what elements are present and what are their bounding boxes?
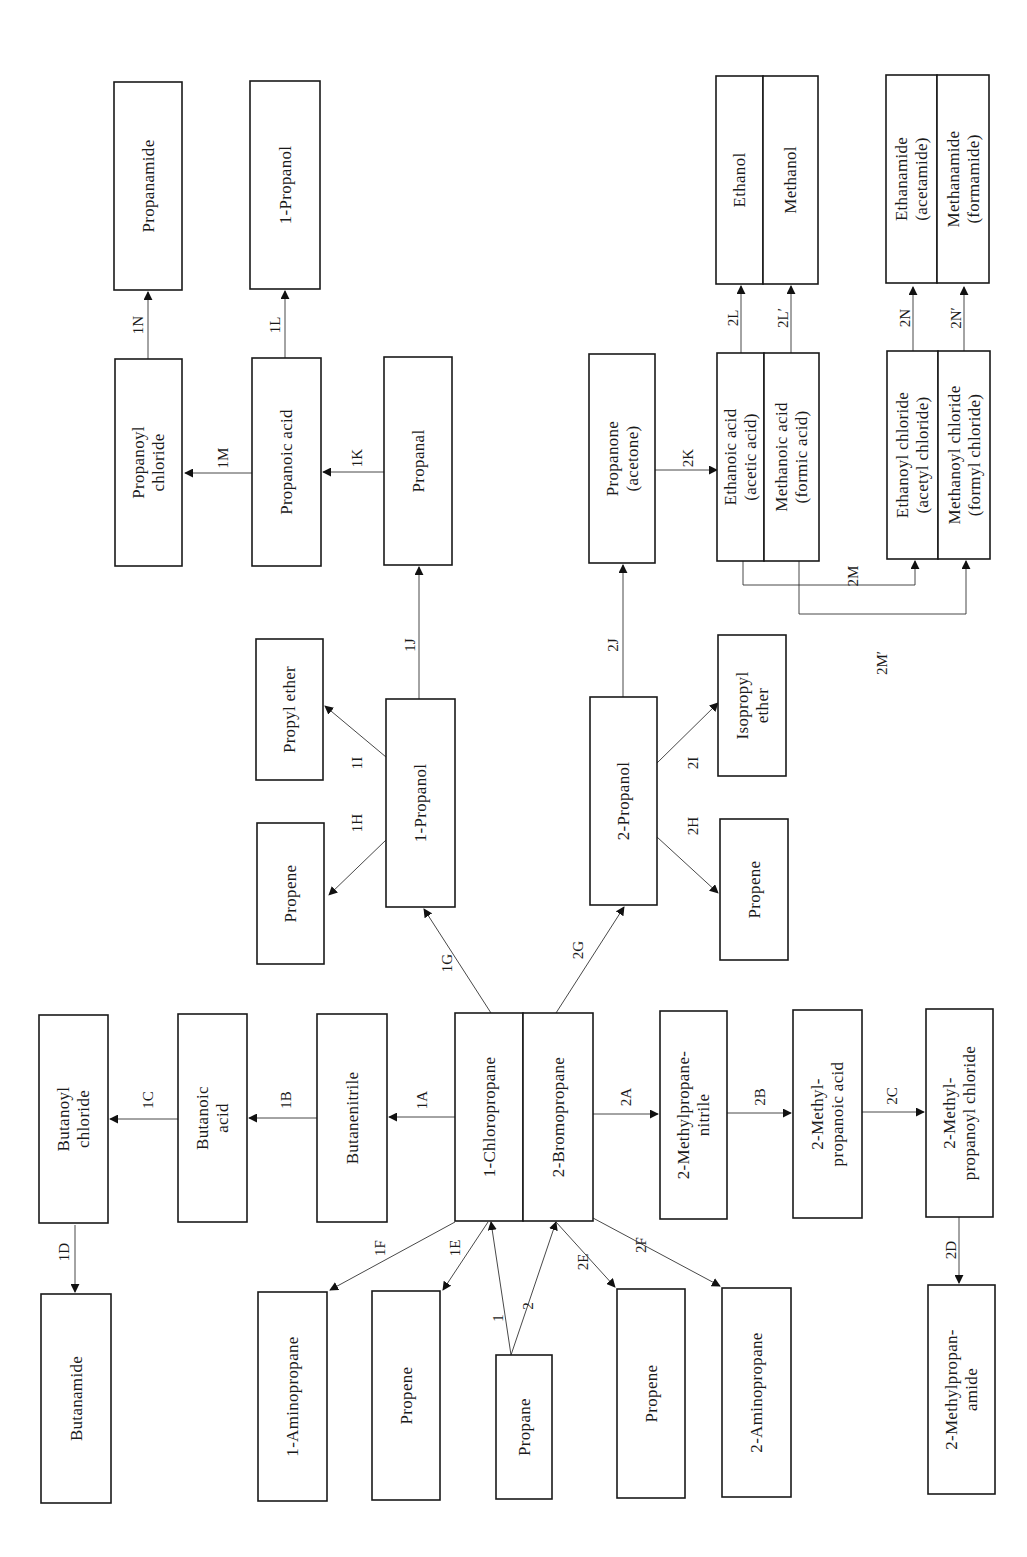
node-label: 2-Methyl-: [808, 1078, 827, 1150]
node-methanamide: Methanamide(formamide): [937, 75, 989, 283]
node-label: Ethanol: [730, 153, 749, 208]
edge-label-1i: 1I: [349, 757, 365, 770]
node-propanol-2: 2-Propanol: [590, 697, 657, 905]
edge-label-1k: 1K: [349, 449, 365, 468]
edge-label-1h: 1H: [349, 814, 365, 833]
node-label: Methanamide: [944, 131, 963, 228]
node-label: Butanoic: [193, 1086, 212, 1150]
node-label: nitrile: [694, 1094, 713, 1137]
node-label: chloride: [74, 1090, 93, 1148]
node-label: Propane: [515, 1398, 534, 1456]
node-methanol: Methanol: [763, 76, 818, 284]
node-label: Propene: [281, 865, 300, 923]
node-label: 2-Aminopropane: [747, 1332, 766, 1452]
node-label: 1-Chloropropane: [480, 1057, 499, 1178]
node-propanoyl-chloride: Propanoylchloride: [115, 359, 182, 566]
node-label: (formyl chloride): [965, 394, 984, 517]
node-propene-2h: Propene: [720, 819, 788, 960]
node-methylpropanenitrile: 2-Methylpropane-nitrile: [660, 1011, 727, 1219]
node-label: (acetyl chloride): [913, 397, 932, 514]
node-label: (formic acid): [792, 410, 811, 503]
edge-arrow-2: [511, 1222, 556, 1355]
node-butanamide: Butanamide: [41, 1294, 111, 1503]
edge-label-1f: 1F: [372, 1240, 388, 1256]
node-label: 2-Bromopropane: [549, 1057, 568, 1177]
node-label: Ethanamide: [892, 137, 911, 221]
node-label: Propene: [642, 1365, 661, 1423]
node-label: (acetamide): [912, 137, 931, 221]
edge-label-1e: 1E: [447, 1240, 463, 1257]
node-propanone: Propanone(acetone): [589, 354, 655, 563]
node-label: Propyl ether: [280, 666, 299, 753]
node-label: 1-Propanol: [411, 764, 430, 843]
edge-arrow-1f: [330, 1222, 455, 1290]
node-label: 2-Methylpropane-: [674, 1051, 693, 1180]
node-label: Propene: [397, 1367, 416, 1425]
node-label: Propanoic acid: [277, 409, 296, 515]
node-label: propanoic acid: [828, 1061, 847, 1166]
node-label: Butanoyl: [54, 1087, 73, 1152]
node-label: Butanamide: [67, 1356, 86, 1441]
edge-arrow-1h: [329, 840, 386, 895]
node-label: Ethanoyl chloride: [893, 392, 912, 518]
node-label: (acetone): [623, 426, 642, 492]
edge-label-2l-prime: 2L′: [775, 308, 791, 328]
node-methylpropanamide: 2-Methylpropan-amide: [928, 1285, 995, 1494]
node-label: Ethanoic acid: [721, 408, 740, 505]
node-label: 2-Propanol: [614, 762, 633, 841]
edge-label-2d: 2D: [943, 1241, 959, 1260]
node-propanoic-acid: Propanoic acid: [252, 358, 321, 566]
node-aminopropane-2: 2-Aminopropane: [722, 1288, 791, 1497]
edge-label-1: 1: [490, 1314, 506, 1322]
node-butanoyl-chloride: Butanoylchloride: [39, 1015, 108, 1223]
edge-label-1a: 1A: [414, 1091, 430, 1110]
edge-label-1j: 1J: [402, 638, 418, 652]
edge-arrow-2i: [657, 703, 718, 763]
node-propanamide: Propanamide: [114, 82, 182, 290]
node-label: amide: [962, 1368, 981, 1411]
node-propene-2e: Propene: [617, 1289, 685, 1498]
edge-label-2l: 2L: [725, 310, 741, 327]
node-label: Propanamide: [139, 140, 158, 233]
edge-label-2: 2: [520, 1302, 536, 1310]
node-label: Butanenitrile: [343, 1072, 362, 1165]
node-chloropropane-1: 1-Chloropropane: [455, 1013, 523, 1221]
node-label: Propanoyl: [129, 426, 148, 499]
node-label: Methanol: [781, 146, 800, 214]
edge-arrow-1g: [424, 909, 491, 1013]
node-propanal: Propanal: [384, 357, 452, 565]
node-aminopropane-1: 1-Aminopropane: [258, 1292, 327, 1501]
edge-arrow-1i: [325, 706, 386, 757]
reaction-flow-diagram: Propanamide1-PropanolPropanoylchloridePr…: [0, 0, 1027, 1557]
node-label: 2-Methylpropan-: [942, 1329, 961, 1450]
edge-arrow-2f: [593, 1218, 720, 1286]
node-label: Methanoyl chloride: [945, 385, 964, 524]
node-butanoic-acid: Butanoicacid: [178, 1014, 247, 1222]
edge-arrow-2h: [657, 837, 718, 893]
node-label: Methanoic acid: [772, 402, 791, 512]
node-methylpropanoic-acid: 2-Methyl-propanoic acid: [793, 1010, 862, 1218]
edge-label-2b: 2B: [752, 1088, 768, 1106]
edge-label-2h: 2H: [685, 817, 701, 836]
node-methylpropanoyl-chloride: 2-Methyl-propanoyl chloride: [926, 1009, 993, 1217]
node-ethanoic-acid: Ethanoic acid(acetic acid): [717, 353, 764, 561]
edge-label-2c: 2C: [884, 1087, 900, 1105]
edge-arrow-2m-prime: [799, 561, 966, 614]
edge-label-1l: 1L: [267, 317, 283, 334]
node-butanenitrile: Butanenitrile: [317, 1014, 387, 1222]
edge-label-1g: 1G: [439, 954, 455, 973]
node-label: propanoyl chloride: [960, 1046, 979, 1180]
node-propanol-1: 1-Propanol: [386, 699, 455, 907]
node-label: 2-Methyl-: [940, 1077, 959, 1149]
edge-label-1c: 1C: [140, 1091, 156, 1109]
edge-label-2k: 2K: [680, 449, 696, 468]
edge-label-2n: 2N: [897, 309, 913, 328]
node-label: acid: [213, 1103, 232, 1133]
node-label: Propene: [745, 861, 764, 919]
edge-arrow-1: [491, 1222, 511, 1355]
node-propene-1e: Propene: [372, 1291, 440, 1500]
edge-label-2g: 2G: [570, 941, 586, 960]
node-ethanamide: Ethanamide(acetamide): [886, 75, 937, 283]
edge-label-2m: 2M: [845, 566, 861, 587]
edge-label-2j: 2J: [605, 638, 621, 652]
